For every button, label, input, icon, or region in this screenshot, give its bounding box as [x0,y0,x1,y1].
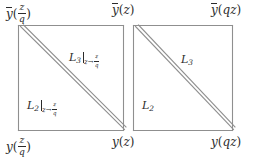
fraction-z-over-q: zq [18,136,26,157]
region-label-left-lower: L2z→zq [27,100,58,116]
region-label-right-upper: L3 [181,54,193,67]
ybar-glyph: y [211,3,218,16]
arg-qz: qz [222,135,236,149]
ybar-glyph: y [112,3,119,16]
region-label-left-upper: L3z→zq [69,52,100,68]
corner-label-bottom-right: y(qz) [211,136,241,148]
restriction-target-fraction: zq [94,54,99,68]
ybar-glyph: y [6,7,13,20]
y-glyph: y [6,140,13,154]
L-subscript: 2 [149,104,154,113]
math-diagram: y(zq) y(z) y(qz) y(zq) y(z) y(qz) L3z→zq… [0,0,258,161]
close-paren: ) [130,135,135,149]
open-paren: ( [13,7,18,21]
open-paren: ( [13,140,18,154]
right-square-diagonal [136,25,236,130]
arg-qz: qz [222,3,236,17]
restriction-bar: z→zq [39,100,58,116]
close-paren: ) [236,135,241,149]
close-paren: ) [26,140,31,154]
corner-label-top-right: y(qz) [211,3,241,16]
L-subscript: 3 [188,58,193,67]
restriction-bar: z→zq [81,52,100,68]
restriction-target-fraction: zq [52,102,57,116]
restriction-condition: z→zq [84,58,100,66]
y-glyph: y [211,135,218,149]
y-glyph: y [112,135,119,149]
close-paren: ) [236,3,241,17]
corner-label-bottom-left: y(zq) [6,136,31,157]
right-arrow-icon: → [88,58,94,66]
corner-label-top-middle: y(z) [112,3,134,16]
corner-label-top-left: y(zq) [6,3,31,24]
corner-label-bottom-middle: y(z) [112,136,134,148]
restriction-condition: z→zq [42,106,58,114]
region-label-right-lower: L2 [142,100,154,113]
fraction-z-over-q: zq [18,3,26,24]
right-square-outline [134,26,233,131]
right-arrow-icon: → [46,106,52,114]
close-paren: ) [26,7,31,21]
close-paren: ) [130,3,135,17]
